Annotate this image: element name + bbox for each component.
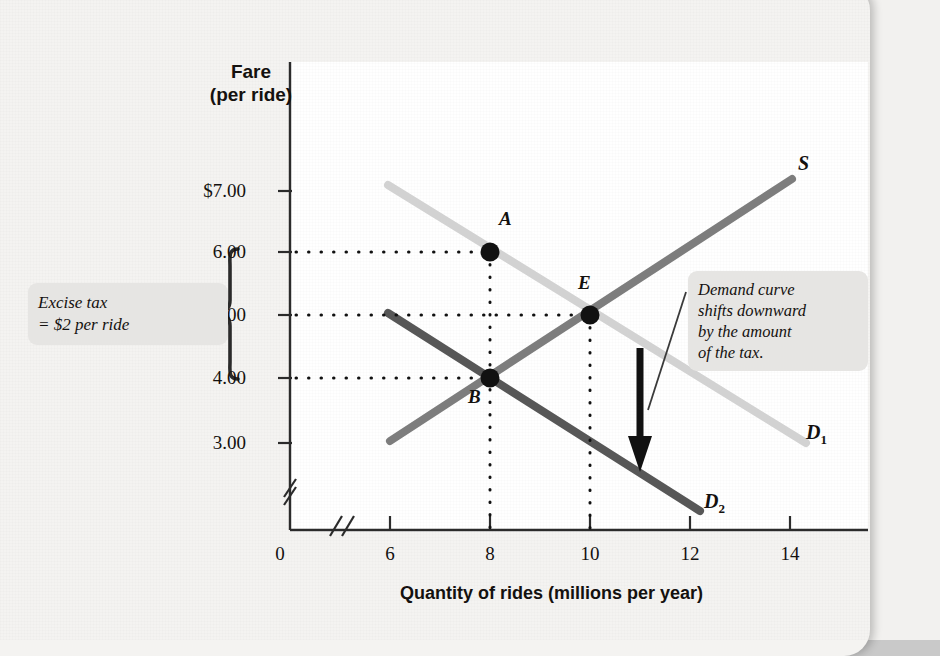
d1-letter: D bbox=[806, 421, 820, 443]
excise-tax-callout: Excise tax = $2 per ride bbox=[28, 283, 228, 345]
shift-line3: by the amount bbox=[698, 322, 791, 341]
x-tick-label-6: 6 bbox=[370, 543, 410, 565]
x-tick-label-10: 10 bbox=[570, 543, 610, 565]
shift-line1: Demand curve bbox=[698, 280, 795, 299]
point-b-marker bbox=[481, 369, 500, 388]
y-axis-title-line1: Fare bbox=[231, 61, 271, 82]
point-b-label: B bbox=[468, 386, 481, 408]
y-tick-label-7: $7.00 bbox=[160, 180, 246, 202]
y-tick-label-6: 6.00 bbox=[160, 241, 246, 263]
y-axis-title: Fare (per ride) bbox=[196, 60, 306, 106]
shift-line2: shifts downward bbox=[698, 301, 806, 320]
point-a-marker bbox=[481, 243, 500, 262]
excise-tax-line2: = $2 per ride bbox=[38, 315, 129, 334]
x-tick-label-8: 8 bbox=[470, 543, 510, 565]
point-e-marker bbox=[581, 306, 600, 325]
supply-curve-label: S bbox=[798, 152, 809, 175]
guide-lines bbox=[296, 252, 590, 528]
x-axis-title: Quantity of rides (millions per year) bbox=[400, 583, 703, 604]
y-tick-label-3: 3.00 bbox=[160, 432, 246, 454]
x-tick-label-14: 14 bbox=[770, 543, 810, 565]
demand-curve-d2-label: D2 bbox=[704, 490, 725, 517]
y-axis-title-line2: (per ride) bbox=[210, 84, 292, 105]
point-a-label: A bbox=[499, 208, 512, 230]
shift-line4: of the tax. bbox=[698, 343, 764, 362]
d1-subscript: 1 bbox=[820, 432, 827, 447]
axis-break-marks bbox=[284, 479, 354, 536]
d2-subscript: 2 bbox=[718, 501, 725, 516]
point-e-label: E bbox=[578, 272, 591, 294]
excise-tax-line1: Excise tax bbox=[38, 293, 107, 312]
demand-curve-d1-label: D1 bbox=[806, 421, 827, 448]
y-tick-label-4: 4.00 bbox=[160, 367, 246, 389]
demand-shift-callout: Demand curve shifts downward by the amou… bbox=[688, 271, 868, 371]
x-tick-label-12: 12 bbox=[670, 543, 710, 565]
d2-letter: D bbox=[704, 490, 718, 512]
origin-label: 0 bbox=[265, 543, 295, 565]
